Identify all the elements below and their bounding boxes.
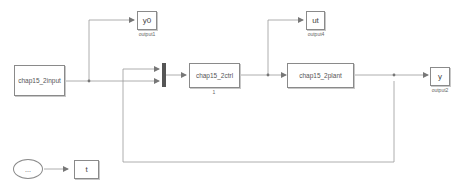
mux-block[interactable] — [162, 63, 166, 87]
plant-block[interactable]: chap15_2plant — [287, 63, 354, 88]
output-y0-block[interactable]: y0 — [137, 11, 157, 30]
output-t-label: t — [85, 165, 87, 174]
output-y-label: y — [438, 72, 442, 81]
plant-block-label: chap15_2plant — [299, 72, 342, 79]
output-y-block[interactable]: y — [430, 67, 450, 86]
line-input-to-y0 — [89, 20, 134, 81]
clock-block[interactable]: ... — [13, 159, 43, 179]
input-block[interactable]: chap15_2input — [14, 65, 65, 96]
clock-block-label: ... — [25, 166, 31, 173]
ctrl-block-sublabel: 1 — [206, 89, 222, 95]
output-t-block[interactable]: t — [74, 160, 99, 179]
junction-dot — [393, 74, 396, 77]
output-ut-sublabel: output4 — [299, 31, 333, 37]
signal-lines — [0, 0, 457, 188]
junction-dot — [267, 74, 270, 77]
ctrl-block[interactable]: chap15_2ctrl — [189, 63, 240, 88]
output-ut-label: ut — [312, 16, 319, 25]
junction-dot — [88, 80, 91, 83]
output-y0-sublabel: output1 — [130, 31, 164, 37]
output-y-sublabel: output2 — [423, 87, 457, 93]
ctrl-block-label: chap15_2ctrl — [196, 72, 233, 79]
diagram-canvas: chap15_2input y0 output1 chap15_2ctrl 1 … — [0, 0, 457, 188]
input-block-label: chap15_2input — [18, 77, 61, 84]
output-ut-block[interactable]: ut — [306, 11, 325, 30]
output-y0-label: y0 — [143, 16, 151, 25]
